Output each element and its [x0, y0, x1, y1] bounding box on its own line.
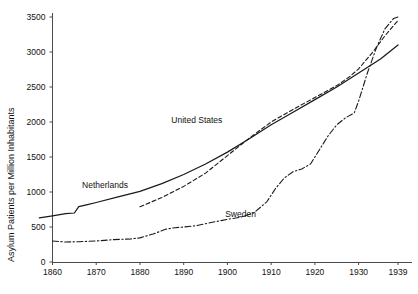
y-axis-title: Asylum Patients per Million Inhabitants [6, 107, 16, 262]
series-label-netherlands: Netherlands [82, 180, 128, 190]
series-line-united-states [140, 21, 398, 207]
x-tick-label: 1939 [389, 267, 408, 277]
y-tick-label: 2500 [27, 82, 46, 92]
x-tick-label: 1870 [87, 267, 106, 277]
y-tick-label: 0 [41, 257, 46, 267]
y-tick-label: 3500 [27, 12, 46, 22]
chart-container: Asylum Patients per Million Inhabitants … [0, 0, 418, 294]
y-tick-label: 3000 [27, 47, 46, 57]
y-tick-label: 2000 [27, 117, 46, 127]
series-annotations: NetherlandsUnited StatesSweden [82, 115, 256, 220]
x-tick-label: 1910 [262, 267, 281, 277]
series-lines [39, 17, 398, 242]
line-chart: Asylum Patients per Million Inhabitants … [0, 0, 418, 294]
series-label-united-states: United States [171, 115, 222, 125]
x-tick-label: 1880 [131, 267, 150, 277]
series-line-netherlands [39, 45, 398, 218]
y-axis-title-text: Asylum Patients per Million Inhabitants [6, 107, 16, 262]
y-tick-label: 500 [31, 222, 45, 232]
x-tick-label: 1920 [305, 267, 324, 277]
y-tick-label: 1500 [27, 152, 46, 162]
x-axis-ticks: 186018701880189019001910192019301939 [43, 262, 408, 277]
series-label-sweden: Sweden [225, 209, 256, 219]
y-tick-label: 1000 [27, 187, 46, 197]
x-tick-label: 1900 [218, 267, 237, 277]
x-tick-label: 1930 [349, 267, 368, 277]
x-tick-label: 1860 [43, 267, 62, 277]
x-tick-label: 1890 [174, 267, 193, 277]
y-axis-ticks: 0500100015002000250030003500 [27, 12, 53, 267]
